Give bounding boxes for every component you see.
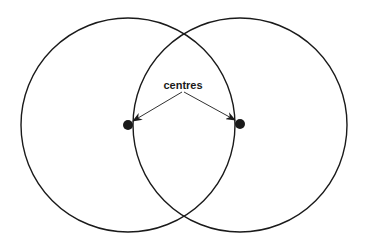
two-circles-diagram: centres	[0, 0, 366, 249]
arrow-to-right-centre	[184, 92, 235, 120]
left-centre-point	[123, 120, 133, 130]
arrow-to-left-centre	[133, 92, 182, 121]
centres-label: centres	[163, 79, 202, 91]
right-centre-point	[235, 119, 245, 129]
